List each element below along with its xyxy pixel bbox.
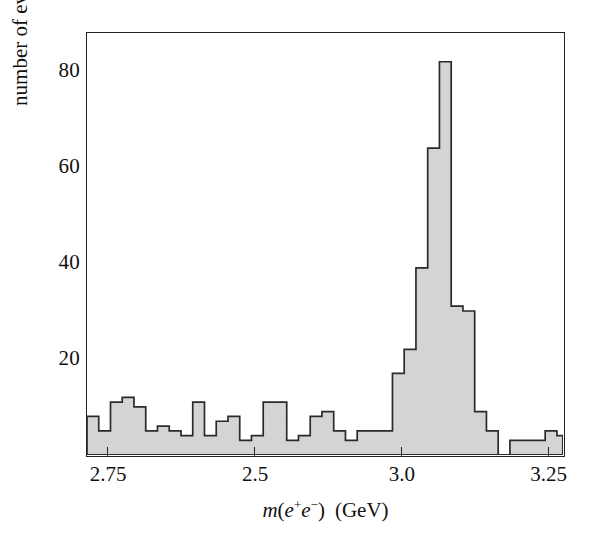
x-axis-quantity-symbol: m — [262, 498, 277, 522]
x-axis-tick-major — [254, 447, 255, 456]
x-axis-tick-major — [107, 447, 108, 456]
y-axis-tick-label: 40 — [40, 252, 80, 274]
y-axis-tick-label-text: 80 — [46, 60, 80, 81]
x-axis-tick-label: 3.25 — [504, 462, 591, 488]
x-axis-tick-label-text: 2.75 — [63, 462, 153, 486]
y-axis-tick-label-text: 40 — [46, 252, 80, 273]
x-axis-close-paren: ) — [318, 498, 325, 522]
y-axis-title: number of events — [6, 0, 34, 148]
x-axis-tick-label: 2.5 — [210, 462, 300, 488]
histogram-outline — [87, 62, 563, 455]
x-axis-tick-label-text: 3.25 — [504, 462, 591, 486]
x-axis-particle-2: e — [301, 498, 310, 522]
x-axis-tick-major — [548, 447, 549, 456]
x-axis-tick-label-text: 2.5 — [210, 462, 300, 486]
histogram-series — [87, 33, 563, 455]
x-axis-open-paren: ( — [278, 498, 285, 522]
x-axis-tick-label: 3.0 — [357, 462, 447, 488]
x-axis-unit: (GeV) — [335, 498, 389, 522]
plot-frame — [86, 32, 565, 457]
y-axis-tick-label: 60 — [40, 156, 80, 178]
x-axis-charge-2: − — [311, 497, 318, 512]
x-axis-tick-label-text: 3.0 — [357, 462, 447, 486]
y-axis-tick-label: 20 — [40, 348, 80, 370]
y-axis-tick-label: 80 — [40, 60, 80, 82]
x-axis-tick-label: 2.75 — [63, 462, 153, 488]
y-axis-title-text: number of events — [6, 0, 34, 148]
plot-area — [87, 33, 564, 456]
x-axis-tick-major — [401, 447, 402, 456]
x-axis-title: m(e+e−)(GeV) — [86, 492, 565, 523]
y-axis-tick-label-text: 20 — [46, 348, 80, 369]
histogram-figure: 20406080 number of events 2.752.53.03.25… — [0, 0, 591, 542]
x-axis-particle-1: e — [285, 498, 294, 522]
y-axis-tick-label-text: 60 — [46, 156, 80, 177]
